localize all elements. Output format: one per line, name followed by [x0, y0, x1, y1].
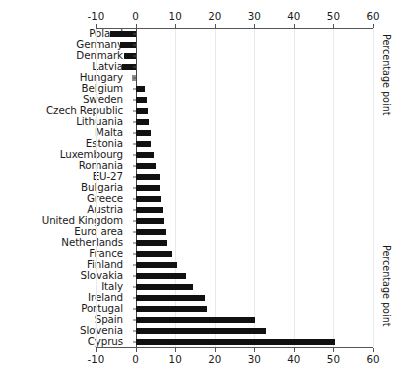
row-tick	[133, 220, 136, 221]
bar-row	[96, 248, 373, 259]
bar-row	[96, 39, 373, 50]
axis-tick	[294, 24, 295, 28]
bar-row	[96, 116, 373, 127]
bar-row	[96, 83, 373, 94]
bar-row	[96, 61, 373, 72]
bar	[136, 141, 152, 147]
bar-row	[96, 314, 373, 325]
axis-tick-label: 20	[208, 354, 221, 364]
bar-row	[96, 50, 373, 61]
bar	[136, 119, 150, 125]
bar	[136, 306, 207, 312]
bar	[136, 152, 154, 158]
bars-container	[96, 28, 373, 347]
row-tick	[133, 110, 136, 111]
bottom-unit-label: Percentage point	[381, 245, 391, 327]
bar-row	[96, 193, 373, 204]
axis-tick-label: 10	[169, 354, 182, 364]
axis-tick	[136, 348, 137, 352]
bar-row	[96, 105, 373, 116]
axis-tick	[294, 348, 295, 352]
row-tick	[133, 33, 136, 34]
bar	[136, 196, 162, 202]
axis-tick-label: 30	[248, 11, 261, 21]
axis-tick-label: 0	[132, 11, 139, 21]
bar	[136, 273, 186, 279]
bar-row	[96, 303, 373, 314]
bar-row	[96, 325, 373, 336]
axis-tick-label: 0	[132, 354, 139, 364]
axis-tick	[215, 24, 216, 28]
bar	[136, 207, 163, 213]
axis-tick	[136, 24, 137, 28]
bar	[136, 174, 161, 180]
bar-row	[96, 226, 373, 237]
bar	[136, 97, 148, 103]
axis-tick	[175, 348, 176, 352]
row-tick	[133, 44, 136, 45]
row-tick	[133, 242, 136, 243]
row-tick	[133, 330, 136, 331]
row-tick	[133, 187, 136, 188]
bar-row	[96, 138, 373, 149]
row-tick	[133, 231, 136, 232]
row-tick	[133, 264, 136, 265]
axis-tick-label: 60	[366, 354, 379, 364]
bar-chart: PolandGermanyDenmarkLatviaHungaryBelgium…	[0, 0, 419, 379]
axis-tick-label: 30	[248, 354, 261, 364]
axis-tick	[254, 24, 255, 28]
bar	[136, 185, 161, 191]
bar-row	[96, 215, 373, 226]
axis-tick	[175, 24, 176, 28]
row-tick	[133, 154, 136, 155]
row-tick	[133, 121, 136, 122]
bar-row	[96, 204, 373, 215]
bar-row	[96, 171, 373, 182]
bar-row	[96, 292, 373, 303]
row-tick	[133, 319, 136, 320]
row-tick	[133, 275, 136, 276]
row-tick	[133, 209, 136, 210]
row-tick	[133, 286, 136, 287]
bar	[136, 295, 206, 301]
axis-tick-label: 40	[287, 11, 300, 21]
row-tick	[133, 176, 136, 177]
axis-tick	[254, 348, 255, 352]
gridline	[373, 28, 374, 347]
bar-row	[96, 28, 373, 39]
bar	[136, 229, 166, 235]
row-tick	[133, 297, 136, 298]
axis-tick-label: -10	[88, 11, 105, 21]
axis-tick	[215, 348, 216, 352]
axis-tick	[96, 348, 97, 352]
axis-tick-label: 20	[208, 11, 221, 21]
row-tick	[133, 88, 136, 89]
bar	[136, 339, 336, 345]
axis-tick	[333, 348, 334, 352]
bar-row	[96, 160, 373, 171]
bar	[136, 328, 266, 334]
bar-row	[96, 281, 373, 292]
row-tick	[133, 99, 136, 100]
row-tick	[133, 143, 136, 144]
bar	[136, 218, 164, 224]
row-tick	[133, 77, 136, 78]
bar-row	[96, 127, 373, 138]
plot-area	[96, 28, 373, 347]
row-tick	[133, 341, 136, 342]
row-tick	[133, 253, 136, 254]
bar	[136, 130, 151, 136]
bar-row	[96, 259, 373, 270]
axis-tick-label: 50	[327, 354, 340, 364]
axis-tick-label: 60	[366, 11, 379, 21]
bar	[136, 86, 146, 92]
bar-row	[96, 336, 373, 347]
axis-tick-label: -10	[88, 354, 105, 364]
top-x-axis: -100102030405060	[96, 28, 373, 29]
top-unit-label: Percentage point	[381, 34, 391, 116]
bar-row	[96, 94, 373, 105]
axis-tick-label: 10	[169, 11, 182, 21]
bar-row	[96, 72, 373, 83]
row-tick	[133, 66, 136, 67]
bar	[136, 108, 149, 114]
